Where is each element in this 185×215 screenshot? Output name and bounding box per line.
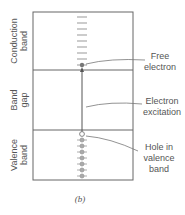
svg-text:gap: gap <box>19 92 29 107</box>
band-box <box>33 12 133 180</box>
label-conduction-band: Conduction band <box>9 18 29 64</box>
svg-text:Hole in: Hole in <box>145 142 173 152</box>
svg-text:Band: Band <box>9 89 19 110</box>
hole-circle <box>80 132 85 137</box>
conduction-levels <box>77 17 87 65</box>
svg-text:Electron: Electron <box>145 96 178 106</box>
leader-excitation <box>86 103 142 107</box>
annotation-free-electron: Free electron <box>144 51 176 72</box>
svg-text:valence: valence <box>143 153 174 163</box>
leader-hole <box>86 136 138 151</box>
svg-text:band: band <box>19 31 29 51</box>
svg-text:electron: electron <box>144 62 176 72</box>
svg-text:Conduction: Conduction <box>9 18 19 64</box>
valence-electrons <box>77 138 87 178</box>
label-valence-band: Valence band <box>9 139 29 171</box>
leader-free-electron <box>86 60 145 65</box>
figure-caption: (b) <box>75 194 86 204</box>
svg-text:band: band <box>149 164 169 174</box>
svg-text:Free: Free <box>151 51 170 61</box>
svg-text:band: band <box>19 145 29 165</box>
label-band-gap: Band gap <box>9 89 29 110</box>
svg-text:excitation: excitation <box>143 107 181 117</box>
svg-text:Valence: Valence <box>9 139 19 171</box>
annotation-hole: Hole in valence band <box>143 142 174 174</box>
free-electron-dot <box>80 63 84 67</box>
band-diagram: Conduction band Band gap Valence band Fr… <box>0 0 185 215</box>
annotation-electron-excitation: Electron excitation <box>143 96 181 117</box>
